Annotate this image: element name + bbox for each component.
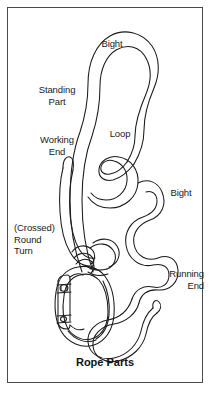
label-standing-part: Standing Part (26, 84, 88, 107)
label-loop: Loop (100, 128, 140, 140)
label-running-end: Running End (142, 268, 204, 291)
running-end-rope (88, 299, 161, 362)
label-bight-lower: Bight (158, 187, 204, 199)
crossed-round-turn-wrap (72, 239, 119, 275)
label-working-end: Working End (26, 134, 88, 157)
carabiner (55, 266, 114, 346)
rope-parts-figure: Bight Standing Part Loop Working End Big… (0, 0, 213, 394)
label-bight-top: Bight (88, 38, 136, 50)
label-crossed-round-turn: (Crossed) Round Turn (14, 222, 76, 257)
loop-spiral (88, 157, 138, 208)
figure-title: Rope Parts (7, 356, 203, 368)
